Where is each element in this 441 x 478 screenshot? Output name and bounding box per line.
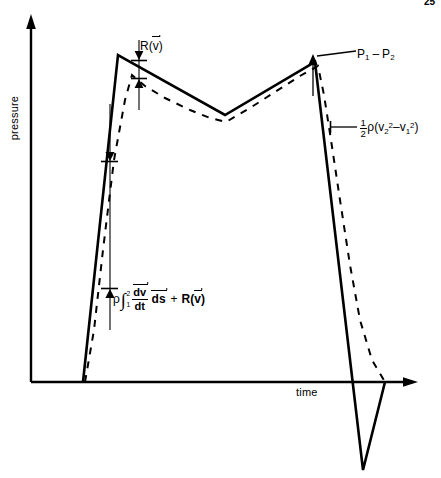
dv-vector: dv [133,287,146,299]
integral-limits: 2 1 [126,291,130,308]
p1-symbol: P [357,47,365,61]
page-number: 25 [424,0,435,7]
p1-p2-leader-arrowhead [308,54,317,65]
annotation-resistance: R(v) [140,40,163,53]
p2-symbol: P [382,47,390,61]
p2-subscript: 2 [390,53,394,62]
dv-numerator: dv [132,287,148,300]
kinetic-close-paren: ) [414,120,418,134]
integral-upper-limit: 2 [126,291,130,298]
annotation-kinetic-term: 1 2 ρ(v22–v12) [359,118,418,139]
integral-sign: ∫ [121,293,126,306]
dt-denominator: dt [132,300,148,312]
integral-lower-limit: 1 [126,302,130,309]
dv-dt-fraction: dv dt [132,287,148,313]
plot-canvas [0,0,441,478]
momentum-rho-symbol: ρ [113,292,120,306]
dashed-curve [85,66,385,382]
y-axis-arrowhead [26,14,36,29]
annotation-pressure-difference: P1–P2 [357,48,395,61]
one-half-fraction: 1 2 [360,118,367,139]
pressure-time-diagram: 25 pressure time R(v) P1–P2 1 2 ρ(v22–v1… [0,0,441,478]
y-axis-label: pressure [8,88,20,148]
p1-p2-leader-line [317,51,356,56]
fraction-denominator: 2 [360,129,367,139]
minus-sign: – [372,47,379,61]
momentum-plus-sign: + [171,292,178,306]
ds-vector: ds [152,293,166,306]
momentum-close-paren: ) [201,292,205,306]
momentum-vector-v: v [194,293,201,306]
x-axis-label: time [296,386,318,398]
axes-group [26,14,418,387]
kinetic-minus-sign: – [393,120,400,134]
momentum-resistance-fn: R [182,292,191,306]
p1-subscript: 1 [365,53,369,62]
kinetic-leader [331,121,358,133]
resistance-close-paren: ) [159,39,163,53]
annotation-momentum-term: ρ∫ 2 1 dv dt ds+R(v) [113,287,205,313]
resistance-fn: R [140,39,149,53]
x-axis-arrowhead [403,377,418,387]
resistance-vector-v: v [153,40,159,53]
